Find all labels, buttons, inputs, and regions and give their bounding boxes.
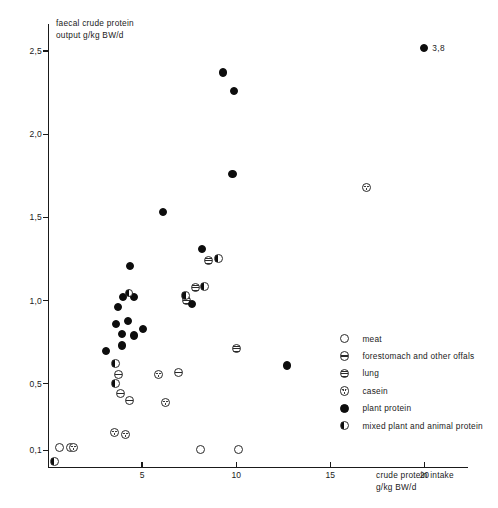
x-axis-tick [141, 462, 142, 468]
y-axis-tick-label: 2,0 [16, 129, 42, 139]
data-point-lung [232, 344, 241, 353]
data-point-plant-protein [118, 341, 126, 349]
legend-item-plant-protein: plant protein [340, 400, 483, 417]
data-point-mixed-plant-and-animal-protein [50, 457, 59, 466]
data-point-mixed-plant-and-animal-protein [214, 254, 223, 263]
x-axis-tick-label: 20 [409, 470, 439, 480]
y-axis-tick [43, 50, 49, 51]
legend: meatforestomach and other offalslungcase… [340, 330, 483, 434]
data-point-plant-protein [188, 300, 196, 308]
data-point-meat [234, 445, 243, 454]
legend-item-lung: lung [340, 365, 483, 382]
legend-item-mixed-plant-and-animal-protein: mixed plant and animal protein [340, 417, 483, 434]
data-point-plant-protein [102, 347, 110, 355]
dotted-circle-marker-icon [340, 386, 349, 395]
half-filled-circle-marker-icon [340, 421, 349, 430]
data-point-plant-protein [112, 320, 120, 328]
data-point-forestomach-and-other-offals [125, 396, 134, 405]
hatched-circle-marker-icon [340, 369, 349, 378]
scatter-plot-figure: faecal crude protein output g/kg BW/d cr… [0, 0, 498, 508]
data-point-plant-protein [126, 262, 134, 270]
data-point-plant-protein [130, 331, 138, 339]
x-axis-line [48, 467, 468, 468]
band-circle-marker-icon [340, 351, 349, 360]
y-axis-tick [43, 134, 49, 135]
legend-item-casein: casein [340, 382, 483, 399]
data-point-casein [69, 443, 78, 452]
y-axis-tick [43, 300, 49, 301]
y-axis-tick [43, 450, 49, 451]
y-axis-tick-label: 1,0 [16, 296, 42, 306]
data-point-forestomach-and-other-offals [114, 370, 123, 379]
legend-item-forestomach-and-other-offals: forestomach and other offals [340, 347, 483, 364]
data-point-plant-protein [114, 303, 122, 311]
data-point-plant-protein [118, 330, 126, 338]
data-point-lung [191, 283, 200, 292]
data-point-forestomach-and-other-offals [116, 389, 125, 398]
data-point-annotation: 3,8 [432, 43, 444, 53]
y-axis-tick-label: 1,5 [16, 212, 42, 222]
y-axis-tick-label: 0,5 [16, 379, 42, 389]
data-point-mixed-plant-and-animal-protein [111, 359, 120, 368]
data-point-plant-protein [420, 44, 428, 52]
data-point-casein [362, 183, 371, 192]
data-point-plant-protein [139, 325, 147, 333]
data-point-forestomach-and-other-offals [174, 368, 183, 377]
data-point-casein [154, 370, 163, 379]
data-point-plant-protein [159, 208, 167, 216]
legend-item-label: forestomach and other offals [362, 351, 474, 361]
data-point-plant-protein [230, 87, 238, 95]
x-axis-tick [236, 462, 237, 468]
legend-item-label: mixed plant and animal protein [362, 421, 483, 431]
data-point-mixed-plant-and-animal-protein [111, 379, 120, 388]
open-circle-marker-icon [340, 334, 349, 343]
y-axis-tick-label: 0,1 [16, 445, 42, 455]
data-point-casein [110, 428, 119, 437]
data-point-plant-protein [198, 245, 206, 253]
data-point-meat [196, 445, 205, 454]
filled-circle-marker-icon [340, 404, 349, 413]
data-point-plant-protein [283, 361, 291, 369]
y-axis-line [48, 24, 49, 468]
data-point-meat [55, 443, 64, 452]
data-point-casein [161, 398, 170, 407]
data-point-lung [204, 256, 213, 265]
x-axis-tick-label: 5 [127, 470, 157, 480]
data-point-plant-protein [228, 170, 236, 178]
legend-item-label: meat [362, 334, 381, 344]
legend-item-label: casein [362, 386, 387, 396]
x-axis-tick [424, 462, 425, 468]
y-axis-tick [43, 383, 49, 384]
data-point-casein [121, 430, 130, 439]
legend-item-label: lung [362, 368, 379, 378]
data-point-plant-protein [124, 317, 132, 325]
y-axis-tick-label: 2,5 [16, 46, 42, 56]
data-point-mixed-plant-and-animal-protein [181, 291, 190, 300]
y-axis-tick [43, 217, 49, 218]
legend-item-meat: meat [340, 330, 483, 347]
data-point-plant-protein [219, 68, 227, 76]
legend-item-label: plant protein [362, 403, 411, 413]
y-axis-title: faecal crude protein output g/kg BW/d [56, 18, 134, 41]
x-axis-tick-label: 15 [315, 470, 345, 480]
x-axis-tick-label: 10 [221, 470, 251, 480]
x-axis-tick [330, 462, 331, 468]
data-point-mixed-plant-and-animal-protein [200, 282, 209, 291]
